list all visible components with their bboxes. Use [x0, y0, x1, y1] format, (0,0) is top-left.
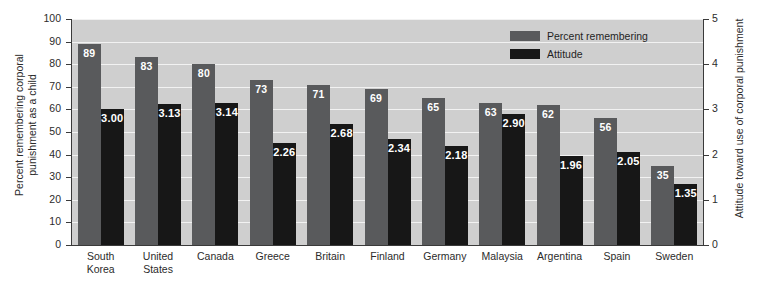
bar-value-label: 63	[479, 106, 502, 118]
right-axis-tick-label: 0	[712, 239, 742, 250]
right-axis-tick	[704, 245, 709, 246]
gridline	[72, 19, 703, 20]
left-axis-tick	[66, 42, 71, 43]
bar-value-label: 2.26	[273, 146, 296, 158]
bar-value-label: 3.14	[215, 106, 238, 118]
bar-percent-remembering: 62	[537, 105, 560, 245]
right-axis-tick-label: 2	[712, 149, 742, 160]
bar-value-label: 2.05	[617, 155, 640, 167]
bar-percent-remembering: 65	[422, 98, 445, 245]
left-axis-tick-label: 90	[21, 36, 61, 47]
right-axis-tick	[704, 64, 709, 65]
bar-attitude: 2.26	[273, 143, 296, 245]
bar-value-label: 80	[192, 67, 215, 79]
left-axis-tick-label: 100	[21, 13, 61, 24]
left-axis-tick	[66, 245, 71, 246]
bar-value-label: 2.34	[388, 142, 411, 154]
right-axis-tick-label: 3	[712, 103, 742, 114]
left-axis-tick	[66, 200, 71, 201]
bar-percent-remembering: 56	[594, 118, 617, 245]
left-axis-tick-label: 50	[21, 126, 61, 137]
legend-label-percent-remembering: Percent remembering	[547, 30, 648, 42]
legend-label-attitude: Attitude	[547, 48, 583, 60]
bar-percent-remembering: 63	[479, 103, 502, 245]
bar-value-label: 56	[594, 121, 617, 133]
bar-value-label: 65	[422, 101, 445, 113]
category-label: Argentina	[531, 250, 588, 263]
category-label: Malaysia	[474, 250, 531, 263]
bar-chart: Percent remembering corporal punishment …	[0, 0, 774, 285]
bottom-axis-line	[71, 245, 704, 246]
bar-value-label: 3.13	[158, 107, 181, 119]
left-axis-tick	[66, 132, 71, 133]
left-axis-line	[71, 19, 72, 246]
left-axis-tick	[66, 222, 71, 223]
left-axis-tick-label: 70	[21, 81, 61, 92]
bar-value-label: 2.18	[445, 149, 468, 161]
gridline	[72, 64, 703, 65]
left-axis-tick-label: 20	[21, 194, 61, 205]
category-label: South Korea	[72, 250, 129, 276]
category-label: United States	[129, 250, 186, 276]
gridline	[72, 87, 703, 88]
bar-value-label: 2.90	[502, 117, 525, 129]
category-label: Spain	[588, 250, 645, 263]
left-axis-tick-label: 80	[21, 58, 61, 69]
legend-swatch-percent-remembering	[510, 31, 540, 41]
bar-value-label: 1.35	[674, 187, 697, 199]
bar-value-label: 83	[135, 60, 158, 72]
right-axis-tick	[704, 200, 709, 201]
left-axis-tick-label: 60	[21, 103, 61, 114]
legend-item-percent-remembering: Percent remembering	[510, 28, 648, 44]
left-axis-tick	[66, 87, 71, 88]
bar-value-label: 35	[651, 169, 674, 181]
bar-percent-remembering: 69	[365, 89, 388, 245]
left-axis-tick-label: 30	[21, 171, 61, 182]
category-label: Britain	[301, 250, 358, 263]
legend-item-attitude: Attitude	[510, 46, 648, 62]
bar-attitude: 2.34	[388, 139, 411, 245]
bar-attitude: 1.96	[560, 156, 583, 245]
bar-attitude: 3.13	[158, 104, 181, 245]
right-axis-tick-label: 1	[712, 194, 742, 205]
bar-percent-remembering: 71	[307, 85, 330, 245]
bar-percent-remembering: 89	[78, 44, 101, 245]
left-axis-tick	[66, 109, 71, 110]
bar-percent-remembering: 83	[135, 57, 158, 245]
bar-attitude: 3.00	[101, 109, 124, 245]
right-axis-line	[703, 19, 704, 246]
left-axis-tick-label: 10	[21, 216, 61, 227]
category-label: Germany	[416, 250, 473, 263]
bar-value-label: 69	[365, 92, 388, 104]
chart-legend: Percent remembering Attitude	[510, 28, 648, 64]
bar-percent-remembering: 80	[192, 64, 215, 245]
right-axis-tick-label: 4	[712, 58, 742, 69]
right-axis-tick-label: 5	[712, 13, 742, 24]
bar-value-label: 71	[307, 88, 330, 100]
left-axis-tick	[66, 64, 71, 65]
left-axis-tick	[66, 19, 71, 20]
bar-value-label: 73	[250, 83, 273, 95]
left-axis-tick	[66, 177, 71, 178]
category-label: Sweden	[646, 250, 703, 263]
bar-attitude: 3.14	[215, 103, 238, 245]
right-axis-tick	[704, 19, 709, 20]
bar-attitude: 2.05	[617, 152, 640, 245]
bar-attitude: 2.68	[330, 124, 353, 245]
bar-value-label: 3.00	[101, 112, 124, 124]
bar-value-label: 62	[537, 108, 560, 120]
bar-value-label: 2.68	[330, 127, 353, 139]
right-axis-title: Attitude toward use of corporal punishme…	[733, 19, 746, 219]
bar-value-label: 89	[78, 47, 101, 59]
left-axis-tick-label: 0	[21, 239, 61, 250]
bar-percent-remembering: 35	[651, 166, 674, 245]
bar-attitude: 2.18	[445, 146, 468, 245]
bar-percent-remembering: 73	[250, 80, 273, 245]
right-axis-tick	[704, 155, 709, 156]
left-axis-tick-label: 40	[21, 149, 61, 160]
bar-attitude: 1.35	[674, 184, 697, 245]
right-axis-tick	[704, 109, 709, 110]
category-label: Finland	[359, 250, 416, 263]
left-axis-tick	[66, 155, 71, 156]
category-label: Canada	[187, 250, 244, 263]
